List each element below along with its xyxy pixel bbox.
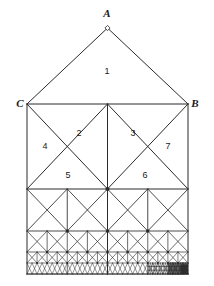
region-label-7: 7 [165,142,170,151]
region-label-3: 3 [130,129,135,138]
region-label-6: 6 [142,171,147,180]
region-label-1: 1 [104,67,109,76]
vertex-label-b: B [191,98,198,109]
vertex-label-a: A [103,8,110,19]
figure-canvas [0,0,214,286]
region-label-5: 5 [65,171,70,180]
region-label-4: 4 [42,142,47,151]
vertex-label-c: C [16,98,23,109]
region-label-2: 2 [76,129,81,138]
geometry-figure: A C B 1 2 3 4 5 6 7 [0,0,214,286]
